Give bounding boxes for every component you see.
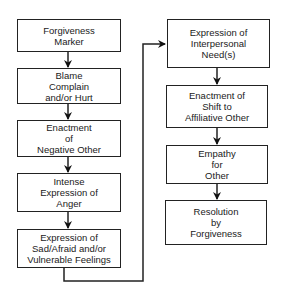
box-line: Sad/Afraid and/or	[32, 243, 106, 254]
box-line: Expression of	[190, 27, 248, 38]
box-line: Interpersonal	[191, 38, 246, 49]
box-expression-interpersonal-needs: Expression of Interpersonal Need(s)	[167, 19, 270, 68]
box-line: Blame	[56, 70, 83, 81]
box-empathy-for-other: Empathy for Other	[166, 145, 268, 184]
box-forgiveness-marker: Forgiveness Marker	[17, 19, 121, 52]
box-line: Enactment of	[189, 90, 245, 101]
box-line: Enactment	[46, 122, 91, 133]
box-resolution-forgiveness: Resolution by Forgiveness	[165, 200, 267, 245]
box-line: for	[211, 159, 222, 170]
box-line: and/or Hurt	[45, 92, 93, 103]
box-line: Forgiveness	[190, 228, 242, 239]
box-line: Need(s)	[202, 49, 236, 60]
box-line: Expression of	[40, 232, 98, 243]
box-enactment-negative-other: Enactment of Negative Other	[17, 120, 121, 157]
box-line: Intense	[53, 176, 84, 187]
box-enactment-shift-affiliative: Enactment of Shift to Affiliative Other	[166, 85, 268, 128]
box-line: Other	[205, 170, 229, 181]
box-line: Vulnerable Feelings	[27, 254, 111, 265]
box-line: Marker	[54, 36, 84, 47]
box-line: Negative Other	[37, 144, 101, 155]
box-blame-complain-hurt: Blame Complain and/or Hurt	[17, 68, 121, 104]
box-line: by	[211, 217, 221, 228]
box-line: Complain	[49, 81, 89, 92]
box-line: Affiliative Other	[185, 112, 249, 123]
box-expression-sad-afraid: Expression of Sad/Afraid and/or Vulnerab…	[17, 229, 121, 268]
box-line: Resolution	[194, 206, 239, 217]
box-line: of	[65, 133, 73, 144]
box-line: Shift to	[202, 101, 232, 112]
box-line: Empathy	[198, 148, 236, 159]
box-line: Forgiveness	[43, 25, 95, 36]
box-intense-expression-anger: Intense Expression of Anger	[17, 173, 121, 212]
box-line: Anger	[56, 198, 81, 209]
box-line: Expression of	[40, 187, 98, 198]
